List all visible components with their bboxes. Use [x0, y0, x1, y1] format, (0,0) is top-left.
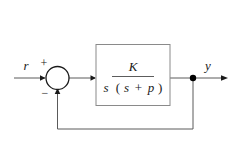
reference-input-label: r — [23, 58, 29, 73]
system-output-label: y — [203, 58, 211, 73]
denominator-s-second: s — [124, 80, 129, 95]
block-diagram-figure: K s ( s + p ) + − r y — [0, 0, 241, 148]
arrowhead-into-sum-positive — [40, 75, 46, 81]
plant-block-rect — [96, 45, 170, 106]
plant-numerator-text: K — [128, 59, 139, 74]
denominator-plus-operator: + — [135, 80, 142, 95]
block-diagram-canvas: K s ( s + p ) + − r y — [0, 0, 241, 148]
denominator-open-paren: ( — [116, 80, 120, 95]
denominator-s-first: s — [104, 80, 109, 95]
arrowhead-into-plant — [91, 75, 97, 81]
denominator-p: p — [147, 80, 155, 95]
denominator-close-paren: ) — [158, 80, 162, 95]
sum-positive-sign: + — [41, 56, 48, 70]
sum-negative-sign: − — [42, 86, 49, 100]
arrowhead-output — [221, 75, 228, 81]
output-takeoff-node-dot — [190, 75, 196, 81]
summing-junction-circle — [46, 67, 69, 90]
